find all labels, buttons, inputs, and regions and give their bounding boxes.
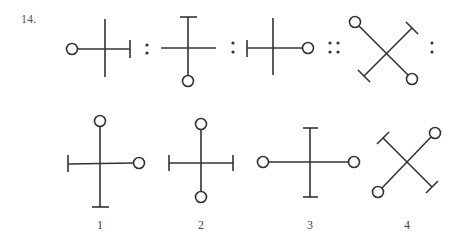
- analogy-puzzle: 14.: [0, 0, 462, 233]
- circle-end-icon: [95, 116, 106, 127]
- circle-end-icon: [196, 192, 207, 203]
- circle-end-icon: [407, 74, 418, 85]
- option-1-label[interactable]: 1: [90, 218, 110, 233]
- separator-colon-1: [145, 43, 148, 54]
- option-2-label[interactable]: 2: [191, 218, 211, 233]
- circle-end-icon: [349, 157, 360, 168]
- circle-end-icon: [134, 158, 145, 169]
- figure-b: [161, 17, 216, 87]
- option-4-label[interactable]: 4: [397, 218, 417, 233]
- option-3-figure[interactable]: [258, 128, 360, 197]
- puzzle-drawing: [0, 0, 462, 233]
- figure-c: [247, 18, 314, 75]
- circle-end-icon: [67, 44, 78, 55]
- option-3-label[interactable]: 3: [300, 218, 320, 233]
- circle-end-icon: [258, 157, 269, 168]
- separator-colon-2: [231, 41, 234, 53]
- circle-end-icon: [350, 17, 361, 28]
- circle-end-icon: [430, 128, 441, 139]
- figure-a: [67, 19, 131, 77]
- figure-d: [350, 17, 419, 85]
- option-1-figure[interactable]: [68, 116, 145, 208]
- separator-double-colon: [328, 41, 339, 53]
- separator-colon-3: [430, 41, 433, 53]
- circle-end-icon: [303, 43, 314, 54]
- circle-end-icon: [183, 76, 194, 87]
- option-2-figure[interactable]: [169, 119, 233, 203]
- circle-end-icon: [373, 187, 384, 198]
- circle-end-icon: [196, 119, 207, 130]
- option-4-figure[interactable]: [373, 128, 441, 198]
